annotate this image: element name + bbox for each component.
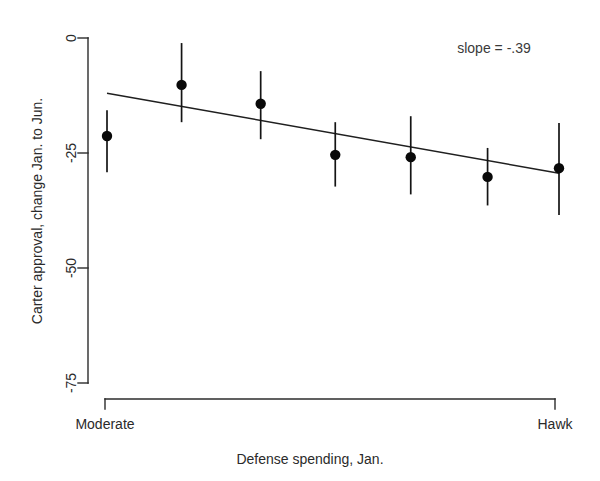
data-point xyxy=(102,131,112,141)
slope-annotation: slope = -.39 xyxy=(457,40,531,56)
data-point xyxy=(176,80,186,90)
scatter-plot-figure: 0 -25 -50 -75 Carter approval, change Ja… xyxy=(0,0,600,481)
x-axis-title: Defense spending, Jan. xyxy=(236,451,383,467)
y-axis xyxy=(78,38,88,383)
x-axis xyxy=(105,399,555,409)
y-tick-label-minus75: -75 xyxy=(63,373,79,393)
data-point xyxy=(554,163,564,173)
x-tick-label-hawk: Hawk xyxy=(537,416,573,432)
regression-fit-line xyxy=(107,93,559,173)
data-point xyxy=(330,150,340,160)
y-axis-title: Carter approval, change Jan. to Jun. xyxy=(29,98,45,324)
chart-page: 0 -25 -50 -75 Carter approval, change Ja… xyxy=(0,0,600,481)
y-tick-label-0: 0 xyxy=(63,34,79,42)
data-point xyxy=(482,172,492,182)
x-tick-label-moderate: Moderate xyxy=(75,416,134,432)
data-point-layer xyxy=(102,43,564,215)
y-tick-label-minus25: -25 xyxy=(63,143,79,163)
data-point xyxy=(255,99,265,109)
data-point xyxy=(406,152,416,162)
y-tick-label-minus50: -50 xyxy=(63,258,79,278)
